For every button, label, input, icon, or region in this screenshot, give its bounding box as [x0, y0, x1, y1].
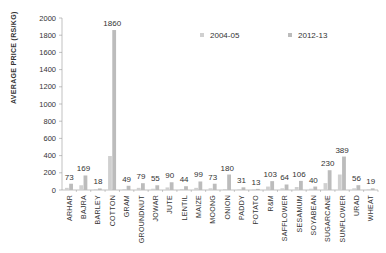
- legend-label: 2004-05: [210, 31, 240, 40]
- data-label: 40: [309, 176, 318, 185]
- data-label: 389: [335, 146, 349, 155]
- legend-swatch: [200, 33, 204, 37]
- bar-2012-13: [170, 182, 174, 190]
- bar-2012-13: [112, 30, 116, 190]
- category-label: JOWAR: [152, 195, 159, 222]
- y-tick-label: 1800: [39, 31, 56, 40]
- bar-2004-05: [79, 185, 83, 190]
- data-label: 1860: [103, 19, 121, 28]
- category-label: PADDY: [238, 195, 245, 220]
- bar-2012-13: [155, 185, 159, 190]
- bar-2012-13: [371, 188, 375, 190]
- data-label: 73: [65, 173, 74, 182]
- bar-2012-13: [313, 187, 317, 190]
- bar-2012-13: [84, 175, 88, 190]
- bar-2012-13: [127, 186, 131, 190]
- data-label: 79: [137, 172, 146, 181]
- bar-2012-13: [285, 184, 289, 190]
- bar-2004-05: [338, 175, 342, 190]
- y-axis-label: AVERAGE PRICE (RS/KG): [10, 11, 17, 104]
- data-label: 19: [366, 177, 375, 186]
- bar-2004-05: [137, 188, 141, 190]
- y-tick-label: 800: [43, 117, 56, 126]
- bar-2012-13: [213, 184, 217, 190]
- data-label: 180: [221, 164, 235, 173]
- data-label: 13: [251, 178, 260, 187]
- bar-2004-05: [194, 188, 198, 190]
- category-label: JUTE: [166, 195, 173, 214]
- category-label: GRAM: [123, 195, 130, 217]
- category-label: WHEAT: [367, 195, 374, 222]
- bar-2012-13: [98, 188, 102, 190]
- bar-2004-05: [280, 188, 284, 190]
- bar-2004-05: [180, 189, 184, 190]
- category-label: ARHAR: [66, 195, 73, 221]
- chart-canvas: 020040060080010001200140016001800200073A…: [0, 0, 386, 253]
- bar-2012-13: [184, 186, 188, 190]
- bar-2004-05: [209, 188, 213, 190]
- data-label: 55: [151, 174, 160, 183]
- y-tick-label: 1000: [39, 100, 56, 109]
- bar-2012-13: [356, 185, 360, 190]
- y-tick-label: 400: [43, 151, 56, 160]
- category-label: SAFFLOWER: [281, 195, 288, 241]
- bar-2004-05: [65, 188, 69, 190]
- category-label: COTTON: [109, 195, 116, 226]
- bar-2004-05: [309, 189, 313, 190]
- bar-2012-13: [69, 184, 73, 190]
- category-label: URAD: [353, 195, 360, 216]
- data-label: 56: [352, 174, 361, 183]
- y-tick-label: 2000: [39, 14, 56, 23]
- data-label: 230: [321, 159, 335, 168]
- bar-2004-05: [352, 188, 356, 190]
- category-label: SOYABEAN: [310, 195, 317, 235]
- bar-2012-13: [328, 170, 332, 190]
- bar-2012-13: [227, 175, 231, 190]
- data-label: 64: [280, 173, 289, 182]
- bar-2004-05: [367, 189, 371, 190]
- category-label: R&M: [267, 195, 274, 211]
- bar-2004-05: [108, 156, 112, 190]
- category-label: MAIZE: [195, 195, 202, 218]
- data-label: 99: [194, 170, 203, 179]
- category-label: POTATO: [252, 195, 259, 225]
- category-label: SUNFLOWER: [339, 195, 346, 242]
- category-label: SUGARCANE: [324, 195, 331, 242]
- y-tick-label: 200: [43, 168, 56, 177]
- y-tick-label: 1200: [39, 82, 56, 91]
- data-label: 31: [237, 176, 246, 185]
- legend-swatch: [288, 33, 292, 37]
- category-label: GROUNDNUT: [138, 195, 145, 244]
- y-tick-label: 0: [52, 186, 56, 195]
- legend-label: 2012-13: [298, 31, 328, 40]
- bar-2004-05: [252, 190, 256, 191]
- bar-2012-13: [256, 189, 260, 190]
- bar-2012-13: [141, 183, 145, 190]
- bar-2004-05: [266, 187, 270, 190]
- data-label: 49: [122, 175, 131, 184]
- y-tick-label: 1600: [39, 48, 56, 57]
- data-label: 18: [93, 177, 102, 186]
- data-label: 169: [77, 164, 91, 173]
- bar-2004-05: [237, 189, 241, 190]
- data-label: 44: [180, 175, 189, 184]
- bar-2004-05: [324, 183, 328, 190]
- data-label: 73: [208, 173, 217, 182]
- data-label: 106: [292, 170, 306, 179]
- bar-2012-13: [198, 181, 202, 190]
- bar-2004-05: [122, 189, 126, 190]
- bar-2004-05: [94, 189, 98, 190]
- data-label: 103: [264, 170, 278, 179]
- category-label: SESAMUM: [296, 195, 303, 233]
- y-tick-label: 600: [43, 134, 56, 143]
- category-label: BARLEY: [94, 195, 101, 224]
- category-label: LENTIL: [181, 195, 188, 221]
- data-label: 90: [165, 171, 174, 180]
- bar-2004-05: [295, 187, 299, 190]
- category-label: ONION: [224, 195, 231, 219]
- bar-chart: 020040060080010001200140016001800200073A…: [0, 0, 386, 253]
- y-tick-label: 1400: [39, 65, 56, 74]
- bar-2004-05: [166, 187, 170, 190]
- bar-2012-13: [242, 187, 246, 190]
- bar-2004-05: [223, 189, 227, 190]
